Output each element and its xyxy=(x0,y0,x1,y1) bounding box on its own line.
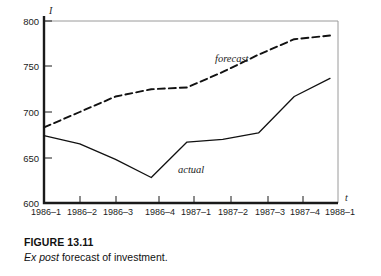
x-tick-label: 1987–1 xyxy=(181,207,211,217)
x-tick-label: 1987–2 xyxy=(218,207,248,217)
y-tick-label: 650 xyxy=(23,153,39,164)
x-tick-label: 1987–3 xyxy=(255,207,285,217)
series-line-actual xyxy=(44,78,330,177)
figure-13-11: 800 750 700 650 600 I 1986–1 19 xyxy=(0,0,381,276)
y-tick-label: 800 xyxy=(23,16,39,27)
figure-caption-text: Ex post forecast of investment. xyxy=(24,250,364,264)
y-tick-label: 700 xyxy=(23,107,39,118)
x-tick-label: 1986–2 xyxy=(67,207,97,217)
y-tick-label: 750 xyxy=(23,61,39,72)
y-axis-tick-labels: 800 750 700 650 600 xyxy=(23,16,39,209)
forecast-annotation-label: forecast xyxy=(215,53,250,64)
x-tick-label: 1986–1 xyxy=(31,207,61,217)
x-tick-label: 1988–1 xyxy=(325,207,355,217)
figure-caption: FIGURE 13.11 Ex post forecast of investm… xyxy=(24,236,364,264)
x-tick-label: 1986–3 xyxy=(103,207,133,217)
actual-annotation-label: actual xyxy=(178,164,204,175)
x-tick-label: 1987–4 xyxy=(290,207,320,217)
figure-caption-rest: forecast of investment. xyxy=(59,251,168,263)
x-axis-tick-labels: 1986–1 1986–2 1986–3 1986–4 1987–1 1987–… xyxy=(31,207,355,217)
x-tick-label: 1986–4 xyxy=(145,207,175,217)
investment-forecast-line-chart: 800 750 700 650 600 I 1986–1 19 xyxy=(0,0,381,232)
chart-plot-area: 800 750 700 650 600 I 1986–1 19 xyxy=(0,0,381,232)
figure-caption-title: FIGURE 13.11 xyxy=(24,236,364,249)
x-axis-name: t xyxy=(345,192,348,203)
figure-caption-emphasis: Ex post xyxy=(24,251,59,263)
y-axis-name: I xyxy=(48,5,53,16)
series-line-forecast xyxy=(44,36,330,128)
